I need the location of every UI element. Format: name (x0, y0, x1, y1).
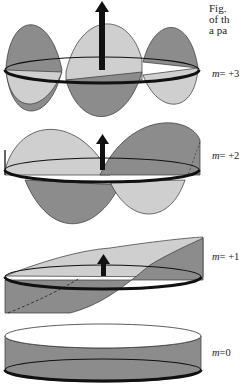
panel-m-0 (5, 324, 201, 382)
panel-m-plus-1 (5, 237, 203, 313)
label-m-0: m=0 (212, 347, 231, 358)
label-m-plus-3: m= +3 (212, 68, 239, 79)
panel-m-plus-3 (5, 1, 199, 117)
label-m-plus-1: m= +1 (212, 251, 239, 262)
panel-m-plus-2 (5, 123, 200, 224)
label-m-plus-2: m= +2 (212, 150, 239, 161)
orbital-angular-momentum-diagram (0, 0, 252, 390)
